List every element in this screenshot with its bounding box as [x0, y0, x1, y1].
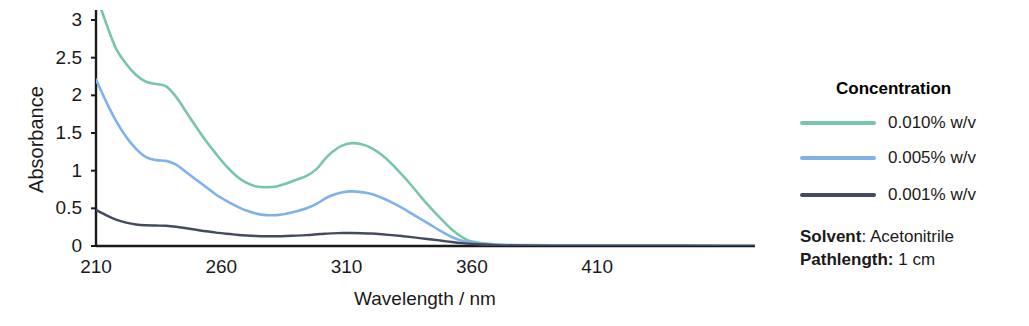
solvent-separator: :	[861, 227, 870, 246]
data-series	[96, 0, 755, 246]
uv-vis-spectrum-figure: Absorbance Wavelength / nm 00.511.522.53…	[0, 0, 1029, 326]
legend-item-2[interactable]: 0.001% w/v	[800, 184, 1029, 206]
solvent-value: Acetonitrile	[870, 227, 954, 246]
x-tick-label: 310	[331, 256, 363, 278]
x-axis-title: Wavelength / nm	[95, 288, 755, 310]
legend-item-label: 0.010% w/v	[888, 113, 976, 133]
series-line	[96, 0, 755, 246]
y-tick-label: 3	[20, 9, 82, 31]
x-tick-label: 360	[456, 256, 488, 278]
legend-panel: Concentration 0.010% w/v 0.005% w/v 0.00…	[790, 0, 1029, 326]
x-tick-label: 210	[80, 256, 112, 278]
y-tick-label: 0	[20, 235, 82, 257]
legend-swatch-icon	[800, 121, 876, 125]
axes	[91, 10, 755, 246]
plot-area: Absorbance Wavelength / nm 00.511.522.53…	[0, 0, 780, 326]
spectrum-plot-svg	[0, 0, 780, 326]
x-tick-label: 260	[205, 256, 237, 278]
y-tick-label: 0.5	[20, 197, 82, 219]
legend-item-label: 0.005% w/v	[888, 148, 976, 168]
legend-swatch-icon	[800, 156, 876, 160]
series-line	[96, 210, 755, 246]
solvent-info: Solvent: Acetonitrile	[800, 227, 954, 247]
y-tick-label: 2.5	[20, 47, 82, 69]
pathlength-value: 1 cm	[898, 250, 935, 269]
legend-item-0[interactable]: 0.010% w/v	[800, 112, 1029, 134]
pathlength-label: Pathlength:	[800, 250, 894, 269]
y-tick-label: 2	[20, 84, 82, 106]
solvent-label: Solvent	[800, 227, 861, 246]
legend-title: Concentration	[836, 79, 951, 99]
x-tick-label: 410	[581, 256, 613, 278]
legend-item-1[interactable]: 0.005% w/v	[800, 147, 1029, 169]
legend-swatch-icon	[800, 193, 876, 197]
series-line	[96, 80, 755, 246]
y-tick-label: 1	[20, 160, 82, 182]
y-tick-label: 1.5	[20, 122, 82, 144]
legend-item-label: 0.001% w/v	[888, 185, 976, 205]
pathlength-info: Pathlength: 1 cm	[800, 250, 935, 270]
